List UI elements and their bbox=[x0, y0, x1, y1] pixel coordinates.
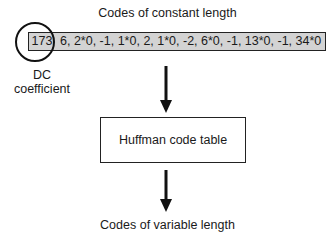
variable-length-label: Codes of variable length bbox=[0, 218, 335, 232]
arrow-down-icon bbox=[160, 170, 172, 212]
huffman-code-table-box: Huffman code table bbox=[100, 117, 246, 163]
arrow-down-icon bbox=[160, 66, 172, 113]
huffman-label: Huffman code table bbox=[119, 133, 227, 147]
